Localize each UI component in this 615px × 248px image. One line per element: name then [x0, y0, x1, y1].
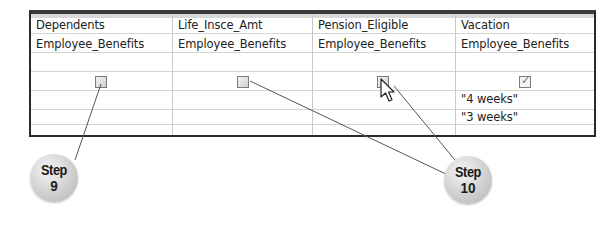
callout-label: Step — [448, 164, 489, 179]
callout-label: Step — [34, 162, 75, 177]
callout-leader-lines — [0, 0, 615, 248]
callout-number: 10 — [446, 180, 489, 195]
mouse-pointer-icon — [380, 78, 398, 104]
callout-number: 9 — [32, 178, 75, 193]
step-9-callout: Step 9 — [30, 154, 78, 202]
step-10-callout: Step 10 — [444, 156, 492, 204]
